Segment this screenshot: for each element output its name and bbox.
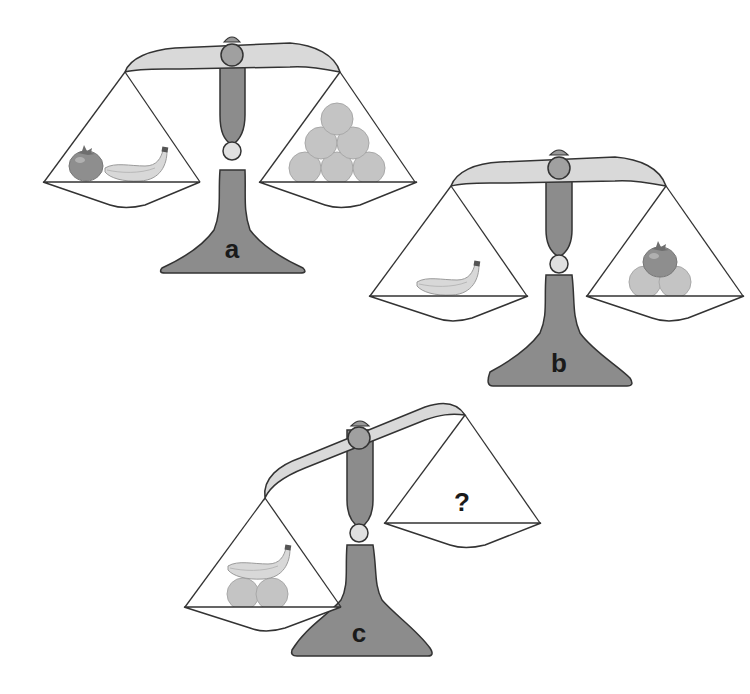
unknown-weight-question-mark: ? [454,487,470,517]
ball-icon [256,578,288,610]
banana-icon [417,261,480,296]
right-pan: ? [384,415,541,548]
joint-icon [550,255,568,273]
right-pan [586,186,744,321]
pan-dish [259,182,417,208]
pivot-icon [348,427,370,449]
pan-dish [586,296,744,321]
left-pan [369,186,528,321]
scale-label: a [225,234,240,264]
puzzle-canvas: a b [0,0,750,694]
scale-a: a [43,37,417,273]
banana-icon [228,545,291,580]
tomato-icon [69,145,103,181]
pivot-icon [548,157,570,179]
scale-label: b [551,348,567,378]
banana-icon [105,147,168,182]
joint-icon [350,524,368,542]
scale-c: ? c [184,404,541,656]
pan-dish [369,296,528,321]
ball-icon [321,103,353,135]
left-pan [184,498,341,631]
scale-b: b [369,150,744,386]
ball-icon [227,578,259,610]
joint-icon [223,142,241,160]
tomato-icon [643,241,677,277]
right-pan [259,72,417,208]
left-pan [43,72,200,208]
scale-label: c [352,618,366,648]
pan-dish [43,182,200,208]
pivot-icon [221,44,243,66]
pan-dish [384,523,541,548]
